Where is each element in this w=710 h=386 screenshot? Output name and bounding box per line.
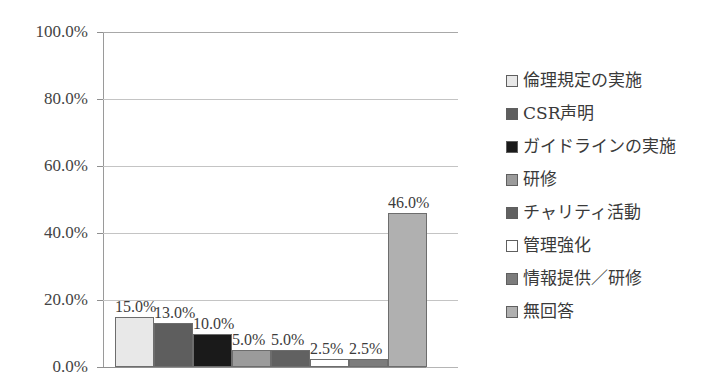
bar-value-label: 2.5%: [310, 341, 343, 357]
legend-label: 情報提供／研修: [523, 269, 642, 288]
y-tick-label: 0.0%: [53, 358, 88, 375]
bar[interactable]: [115, 317, 154, 367]
legend-item[interactable]: 無回答: [506, 295, 710, 328]
legend-swatch-icon: [506, 174, 518, 186]
bar-value-label: 13.0%: [154, 305, 195, 321]
bar[interactable]: [349, 359, 388, 367]
legend-label: 管理強化: [523, 236, 591, 255]
bar[interactable]: [232, 350, 271, 367]
bar-value-label: 15.0%: [115, 299, 156, 315]
y-tick-label: 20.0%: [44, 291, 88, 308]
legend-swatch-icon: [506, 240, 518, 252]
legend-item[interactable]: 管理強化: [506, 229, 710, 262]
bar[interactable]: [271, 350, 310, 367]
plot-area: 15.0%13.0%10.0%5.0%5.0%2.5%2.5%46.0%: [103, 32, 458, 368]
legend-item[interactable]: 倫理規定の実施: [506, 64, 710, 97]
chart-legend: 倫理規定の実施CSR声明ガイドラインの実施研修チャリティ活動管理強化情報提供／研…: [506, 64, 710, 328]
y-axis-tick: [97, 233, 103, 234]
legend-item[interactable]: 情報提供／研修: [506, 262, 710, 295]
chart-title: [0, 0, 710, 2]
legend-swatch-icon: [506, 141, 518, 153]
legend-label: 無回答: [523, 302, 574, 321]
legend-item[interactable]: 研修: [506, 163, 710, 196]
y-axis-tick: [97, 166, 103, 167]
bar-value-label: 10.0%: [193, 316, 234, 332]
legend-item[interactable]: チャリティ活動: [506, 196, 710, 229]
y-axis-tick: [97, 32, 103, 33]
y-tick-label: 100.0%: [36, 23, 88, 40]
legend-label: チャリティ活動: [523, 203, 641, 222]
bar[interactable]: [388, 213, 427, 367]
legend-swatch-icon: [506, 273, 518, 285]
bar-value-label: 46.0%: [388, 195, 429, 211]
x-axis-line: [103, 367, 458, 368]
x-axis-right-stub: [426, 367, 458, 368]
bar-value-label: 2.5%: [349, 341, 382, 357]
legend-label: CSR声明: [523, 104, 594, 123]
chart-figure: 0.0%20.0%40.0%60.0%80.0%100.0% 15.0%13.0…: [0, 0, 710, 386]
y-tick-label: 40.0%: [44, 224, 88, 241]
y-tick-label: 80.0%: [44, 90, 88, 107]
y-axis-tick: [97, 300, 103, 301]
legend-label: ガイドラインの実施: [523, 137, 676, 156]
legend-swatch-icon: [506, 207, 518, 219]
bar[interactable]: [310, 359, 349, 367]
legend-swatch-icon: [506, 75, 518, 87]
legend-item[interactable]: CSR声明: [506, 97, 710, 130]
bar-value-label: 5.0%: [271, 332, 304, 348]
y-axis-tick: [97, 367, 103, 368]
legend-item[interactable]: ガイドラインの実施: [506, 130, 710, 163]
legend-label: 研修: [523, 170, 557, 189]
bar-value-label: 5.0%: [232, 332, 265, 348]
bar[interactable]: [154, 323, 193, 367]
legend-label: 倫理規定の実施: [523, 71, 642, 90]
y-axis-tick-labels: 0.0%20.0%40.0%60.0%80.0%100.0%: [0, 0, 96, 386]
y-tick-label: 60.0%: [44, 157, 88, 174]
legend-swatch-icon: [506, 108, 518, 120]
y-axis-tick: [97, 99, 103, 100]
bar[interactable]: [193, 334, 232, 368]
legend-swatch-icon: [506, 306, 518, 318]
